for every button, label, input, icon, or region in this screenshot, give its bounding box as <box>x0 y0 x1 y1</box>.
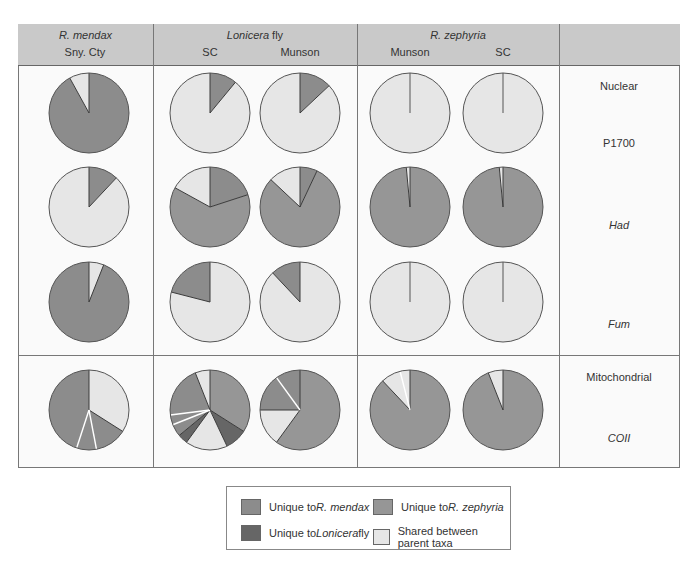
pie-fum <box>370 262 450 342</box>
pie-coii <box>260 370 340 450</box>
pie-fum <box>260 262 340 342</box>
pie-had <box>370 167 450 247</box>
pie-had <box>49 167 129 247</box>
pie-fum <box>49 262 129 342</box>
legend-swatch-mendax <box>241 499 261 515</box>
pie-had <box>463 167 543 247</box>
pie-p1700 <box>370 73 450 153</box>
legend-swatch-lonicera <box>241 525 261 541</box>
legend-swatch-zephyria <box>373 499 393 515</box>
pie-coii <box>463 370 543 450</box>
pie-p1700 <box>49 73 129 153</box>
pie-had <box>170 167 250 247</box>
legend-item-shared: Shared between parent taxa <box>373 525 510 549</box>
legend-item-lonicera: Unique to Lonicera fly <box>241 525 369 541</box>
pie-coii <box>370 370 450 450</box>
pie-coii <box>49 370 129 450</box>
pie-fum <box>463 262 543 342</box>
pie-had <box>260 167 340 247</box>
legend-swatch-shared <box>373 529 390 545</box>
pie-coii <box>170 370 250 450</box>
pie-p1700 <box>260 73 340 153</box>
legend-item-mendax: Unique to R. mendax <box>241 499 369 515</box>
pie-fum <box>170 262 250 342</box>
pie-p1700 <box>463 73 543 153</box>
legend: Unique to R. mendax Unique to R. zephyri… <box>226 486 511 550</box>
legend-item-zephyria: Unique to R. zephyria <box>373 499 504 515</box>
figure: R. mendax Sny. Cty Lonicera fly SC Munso… <box>0 0 700 561</box>
pie-p1700 <box>170 73 250 153</box>
pie-charts <box>0 0 700 561</box>
